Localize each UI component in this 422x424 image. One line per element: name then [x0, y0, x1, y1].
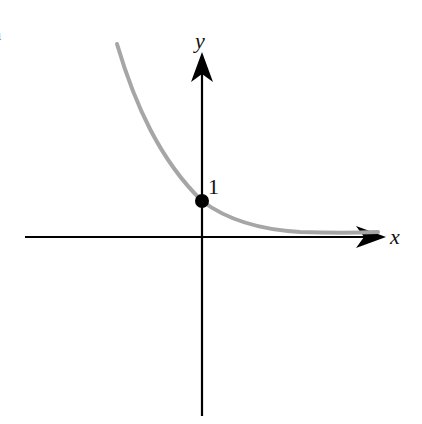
y-axis-label: y [193, 28, 205, 53]
cropped-label-fragment: a [0, 26, 1, 43]
y-intercept-point [195, 194, 209, 208]
exponential-graph: a x y 1 [0, 0, 422, 424]
x-axis [25, 226, 386, 248]
y-axis [191, 52, 213, 416]
y-intercept-label: 1 [208, 174, 219, 199]
exponential-curve [117, 44, 378, 233]
x-axis-label: x [389, 224, 400, 249]
